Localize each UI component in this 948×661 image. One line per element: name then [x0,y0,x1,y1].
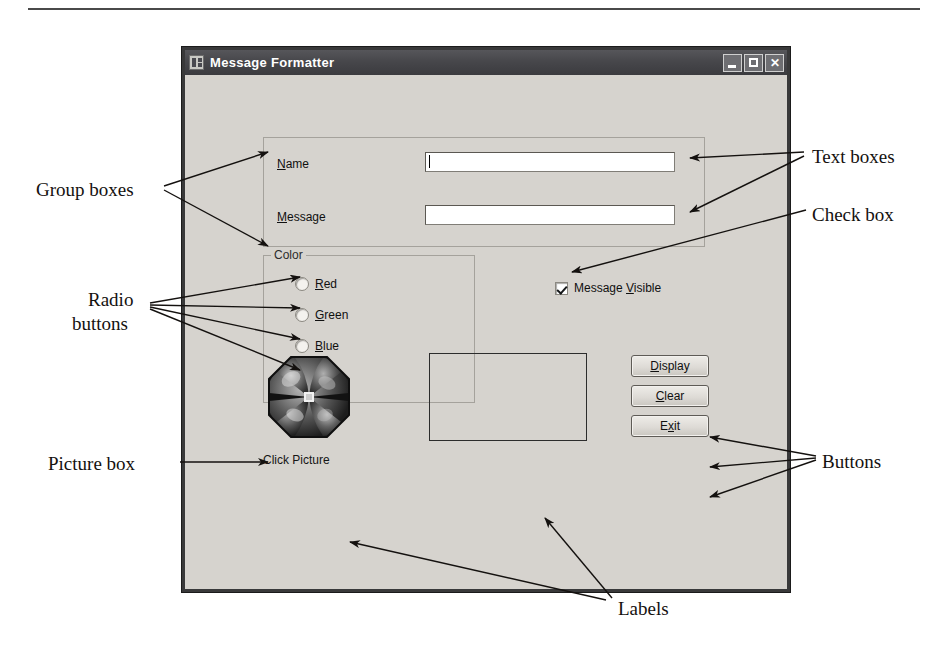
annotation-text-boxes: Text boxes [812,145,895,168]
window-controls: ✕ [723,54,784,72]
window-title: Message Formatter [210,55,723,70]
close-button[interactable]: ✕ [765,54,784,72]
annotation-picture-box: Picture box [48,452,135,475]
window-client-area: Name Message Color Red Green Blue Black … [185,75,787,589]
annotation-buttons: Buttons [822,450,881,473]
minimize-button[interactable] [723,54,742,72]
picture-caption-label: Click Picture [263,453,330,467]
name-input[interactable] [425,152,675,172]
groupbox-color-title: Color [271,248,306,262]
radio-red[interactable]: Red [295,277,337,291]
radio-green[interactable]: Green [295,308,348,322]
annotation-radio-buttons-line2: buttons [72,312,128,335]
radio-knob-icon [295,308,309,322]
exit-button[interactable]: Exit [631,415,709,437]
text-caret [429,155,430,168]
message-label: Message [277,210,326,224]
radio-green-label: Green [315,308,348,322]
radio-red-label: Red [315,277,337,291]
message-visible-label: Message Visible [574,281,661,295]
annotation-radio-buttons-line1: Radio [88,288,133,311]
message-visible-checkbox[interactable]: Message Visible [555,281,661,295]
application-icon [189,55,204,70]
clear-button[interactable]: Clear [631,385,709,407]
radio-knob-icon [295,277,309,291]
picture-box[interactable] [265,353,353,441]
annotation-group-boxes: Group boxes [36,178,134,201]
annotation-check-box: Check box [812,203,894,226]
message-formatter-window: Message Formatter ✕ Name Message Color R… [182,47,790,592]
window-titlebar[interactable]: Message Formatter ✕ [185,50,787,75]
maximize-button[interactable] [744,54,763,72]
flower-pinwheel-image [265,353,353,441]
figure-top-rule [28,8,920,10]
display-button[interactable]: Display [631,355,709,377]
radio-knob-icon [295,339,309,353]
name-label: Name [277,157,309,171]
radio-blue[interactable]: Blue [295,339,339,353]
radio-blue-label: Blue [315,339,339,353]
message-input[interactable] [425,205,675,225]
output-label [429,353,587,441]
checkmark-icon [555,282,568,295]
annotation-labels: Labels [618,597,669,620]
